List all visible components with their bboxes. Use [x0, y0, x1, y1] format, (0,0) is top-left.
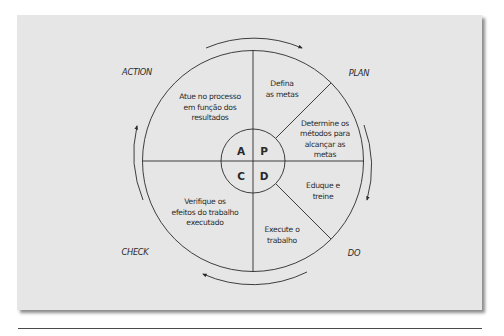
- center-letter-a: A: [237, 145, 246, 157]
- stage-label-plan: PLAN: [349, 68, 369, 78]
- svg-text:metas: metas: [314, 150, 337, 159]
- svg-text:resultados: resultados: [191, 113, 228, 122]
- stage-label-do: DO: [348, 248, 361, 258]
- stage-label-action: ACTION: [121, 67, 152, 77]
- segment-text-plan-goals: Defina as metas: [266, 79, 299, 99]
- svg-text:treine: treine: [313, 192, 334, 201]
- arrow-top-icon: [206, 38, 302, 48]
- center-letter-c: C: [237, 170, 245, 182]
- svg-text:alcançar as: alcançar as: [305, 140, 346, 149]
- svg-text:executado: executado: [186, 218, 224, 227]
- arrow-bottom-icon: [203, 272, 307, 285]
- svg-text:Atue no processo: Atue no processo: [179, 92, 241, 101]
- svg-text:métodos para: métodos para: [300, 129, 350, 138]
- svg-text:Verifique os: Verifique os: [184, 197, 226, 206]
- arrow-left-icon: [134, 126, 143, 200]
- arrow-right-icon: [364, 125, 372, 200]
- svg-text:Defina: Defina: [270, 79, 293, 88]
- center-letter-p: P: [260, 145, 268, 157]
- svg-text:em função dos: em função dos: [184, 103, 237, 112]
- center-letter-d: D: [260, 170, 269, 182]
- segment-text-do-execute: Execute o trabalho: [264, 225, 300, 245]
- pdca-diagram: ACTION PLAN CHECK DO A P C D Atue no pro…: [0, 0, 504, 336]
- svg-text:Eduque e: Eduque e: [306, 181, 340, 190]
- segment-text-action: Atue no processo em função dos resultado…: [179, 92, 241, 122]
- svg-text:as metas: as metas: [266, 90, 299, 99]
- svg-text:efeitos do trabalho: efeitos do trabalho: [171, 208, 239, 217]
- segment-text-check: Verifique os efeitos do trabalho executa…: [171, 197, 239, 227]
- segment-text-plan-methods: Determine os métodos para alcançar as me…: [300, 119, 350, 160]
- svg-text:trabalho: trabalho: [267, 236, 297, 245]
- segment-text-do-train: Eduque e treine: [306, 181, 340, 201]
- stage-label-check: CHECK: [121, 247, 149, 257]
- svg-text:Determine os: Determine os: [301, 119, 349, 128]
- svg-text:Execute o: Execute o: [264, 225, 300, 234]
